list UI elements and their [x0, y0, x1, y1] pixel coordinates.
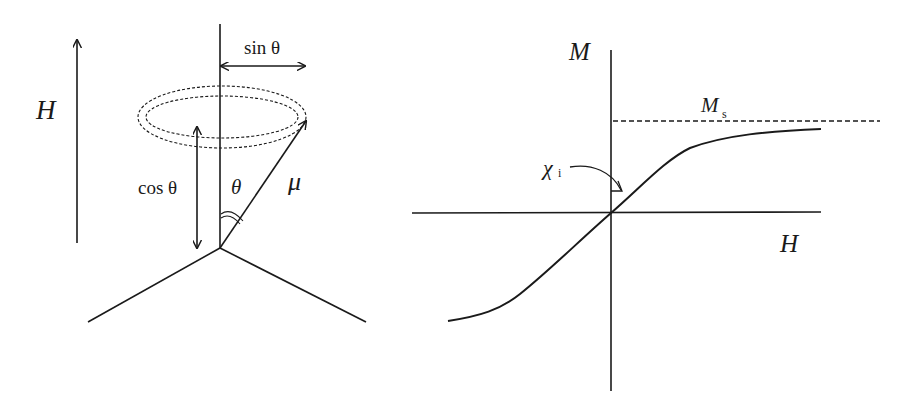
susceptibility-pointer — [570, 166, 621, 190]
cos-theta-label: cos θ — [138, 177, 177, 198]
figure-canvas: H sin θ cos θ μ θ M H M s — [0, 0, 914, 407]
precession-orbit-inner — [146, 96, 298, 138]
h-axis-label: H — [779, 230, 800, 257]
m-axis-label: M — [568, 38, 591, 65]
precession-orbit-outer — [138, 86, 306, 148]
field-label: H — [35, 95, 57, 125]
susceptibility-subscript: i — [558, 166, 562, 180]
saturation-label: M — [700, 93, 720, 117]
saturation-subscript: s — [722, 107, 727, 121]
magnetization-curve: M H M s χ i — [412, 38, 880, 391]
base-leg-left — [88, 248, 220, 322]
precession-diagram: H sin θ cos θ μ θ — [35, 24, 366, 322]
base-leg-right — [220, 248, 366, 322]
sin-theta-label: sin θ — [244, 37, 280, 58]
mh-curve — [448, 129, 821, 321]
theta-label: θ — [231, 175, 241, 199]
susceptibility-label: χ — [541, 155, 554, 180]
h-axis — [412, 212, 821, 213]
moment-label: μ — [287, 167, 301, 196]
